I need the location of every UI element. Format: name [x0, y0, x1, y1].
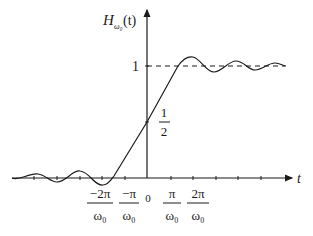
response-curve — [12, 57, 286, 185]
half-label: 1 2 — [159, 105, 170, 139]
tick-label-neg-pi: −π ω₀ — [119, 186, 139, 223]
svg-text:2π: 2π — [191, 186, 205, 201]
tick-label-pi: π ω₀ — [163, 186, 181, 223]
level-one-label: 1 — [132, 59, 139, 74]
svg-text:1: 1 — [161, 105, 168, 120]
tick-label-neg-2pi: −2π ω₀ — [87, 186, 113, 223]
svg-text:π: π — [169, 186, 176, 201]
svg-text:−2π: −2π — [90, 186, 111, 201]
svg-text:−π: −π — [122, 186, 136, 201]
step-response-diagram: H ω₀ (t) t 1 1 2 0 −2π ω₀ −π ω₀ π ω₀ 2π … — [0, 0, 313, 236]
origin-label: 0 — [145, 192, 151, 204]
svg-text:ω₀: ω₀ — [165, 208, 178, 223]
x-axis-label: t — [297, 171, 302, 186]
svg-text:ω₀: ω₀ — [122, 208, 135, 223]
svg-text:ω₀: ω₀ — [191, 208, 204, 223]
svg-text:ω₀: ω₀ — [114, 22, 123, 31]
tick-label-2pi: 2π ω₀ — [187, 186, 209, 223]
svg-text:2: 2 — [161, 124, 168, 139]
svg-text:(t): (t) — [123, 13, 137, 29]
svg-text:ω₀: ω₀ — [93, 208, 106, 223]
y-axis-label: H ω₀ (t) — [102, 12, 137, 31]
